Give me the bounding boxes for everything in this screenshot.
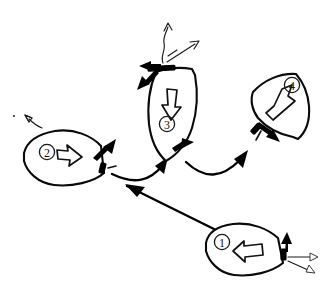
force-arrow-1-right-b (288, 261, 315, 273)
stage-2-label: 2 (44, 146, 50, 160)
stage-1-label: 1 (219, 236, 225, 250)
maneuver-path (112, 150, 248, 231)
wind-arrow-3-up (162, 23, 172, 63)
force-arrow-1-right-a (288, 253, 318, 261)
path-segment-1-to-2 (127, 186, 218, 231)
stage-4-label: 4 (289, 79, 295, 93)
stage-3-label: 3 (164, 118, 170, 132)
path-arrowhead-to-4 (234, 150, 248, 168)
stray-ink-dot (13, 115, 15, 117)
stub-mark-3 (168, 50, 177, 56)
path-segment-2-to-3 (112, 165, 163, 180)
vessel-stage-2: 2 (13, 115, 116, 186)
vessel-stage-1: 1 (206, 224, 318, 276)
path-segment-3-to-4 (186, 160, 240, 175)
diagram-canvas: 1 2 (0, 0, 329, 291)
wind-arrow-2 (25, 115, 42, 128)
vessel-stage-4: 4 (250, 74, 309, 142)
vessel-maneuver-diagram: 1 2 (0, 0, 329, 291)
wind-arrow-3-upright (167, 41, 199, 62)
dash-2 (108, 166, 116, 168)
vessel-stage-3: 3 (137, 23, 199, 161)
path-arrowhead-to-2 (125, 184, 145, 197)
